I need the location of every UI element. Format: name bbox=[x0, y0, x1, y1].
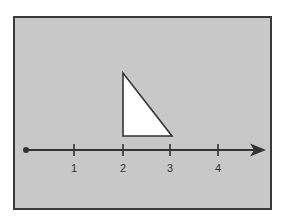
diagram-canvas: 1 2 3 4 bbox=[0, 0, 281, 218]
tick-label-3: 3 bbox=[167, 162, 173, 174]
tick-label-1: 1 bbox=[71, 162, 77, 174]
start-dot-icon bbox=[23, 147, 29, 153]
tick-label-2: 2 bbox=[120, 162, 126, 174]
tick-label-4: 4 bbox=[215, 162, 221, 174]
